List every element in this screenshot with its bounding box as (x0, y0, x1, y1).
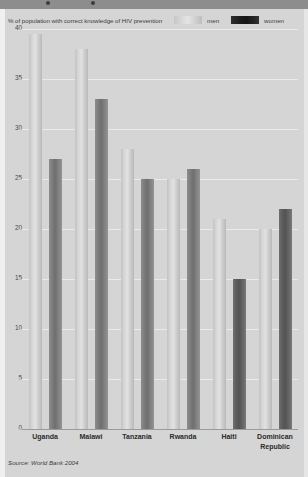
category-label-tanzania: Tanzania (114, 432, 160, 442)
gridline (22, 29, 298, 30)
bar-haiti-women (233, 279, 246, 429)
gridline (22, 229, 298, 230)
category-label-uganda: Uganda (22, 432, 68, 442)
legend-label-men: men (207, 17, 219, 24)
bar-tanzania-men (121, 149, 134, 429)
legend-swatch-men (174, 16, 202, 24)
category-label-rwanda: Rwanda (160, 432, 206, 442)
chart-title: % of population with correct knowledge o… (8, 17, 162, 24)
bar-malawi-women (95, 99, 108, 429)
window-title-bar-strip (0, 0, 308, 9)
plot-area (22, 29, 298, 429)
gridline (22, 329, 298, 330)
legend-label-women: women (264, 17, 284, 24)
right-gutter (304, 9, 308, 477)
gridline (22, 379, 298, 380)
bar-tanzania-women (141, 179, 154, 429)
bar-dominican-republic-women (279, 209, 292, 429)
bar-dominican-republic-men (259, 229, 272, 429)
legend-item-men: men (174, 16, 219, 24)
legend-item-women: women (231, 16, 284, 24)
category-label-dominican-republic: Dominican Republic (252, 432, 298, 451)
x-axis-baseline (22, 429, 298, 430)
bar-rwanda-men (167, 179, 180, 429)
category-label-haiti: Haiti (206, 432, 252, 442)
bar-rwanda-women (187, 169, 200, 429)
gridline (22, 179, 298, 180)
y-axis-labels: 0510152025303540 (4, 29, 22, 429)
legend-swatch-women (231, 16, 259, 24)
bar-haiti-men (213, 219, 226, 429)
title-bar-dot-2 (91, 1, 95, 5)
gridline (22, 279, 298, 280)
title-bar-dot-1 (46, 1, 50, 5)
gridline (22, 129, 298, 130)
category-label-malawi: Malawi (68, 432, 114, 442)
chart-header: % of population with correct knowledge o… (8, 13, 302, 27)
source-note: Source: World Bank 2004 (8, 459, 79, 466)
bar-uganda-men (29, 34, 42, 429)
chart-page: % of population with correct knowledge o… (0, 0, 308, 477)
bar-uganda-women (49, 159, 62, 429)
gridline (22, 79, 298, 80)
bar-malawi-men (75, 49, 88, 429)
x-axis-category-labels: UgandaMalawiTanzaniaRwandaHaitiDominican… (22, 432, 298, 458)
